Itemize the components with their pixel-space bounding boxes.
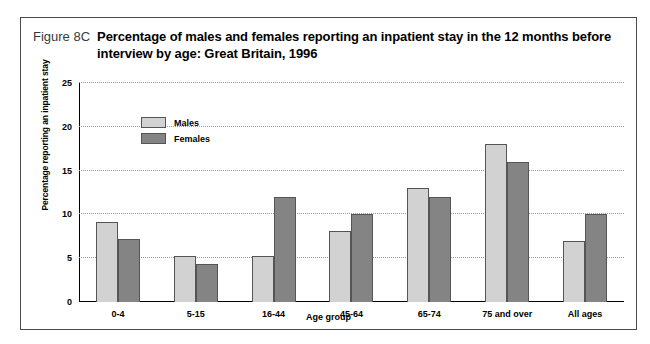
bar-males — [407, 188, 429, 302]
chart-container: Percentage reporting an inpatient stay 0… — [21, 18, 636, 329]
y-tick-label: 0 — [67, 297, 72, 307]
bar-females — [196, 264, 218, 302]
y-axis-title: Percentage reporting an inpatient stay — [40, 45, 50, 225]
legend-label: Males — [174, 118, 199, 128]
y-tick-label: 5 — [67, 253, 72, 263]
bar-males — [563, 241, 585, 302]
x-axis-title: Age group — [21, 312, 636, 322]
y-tick-label: 10 — [62, 209, 72, 219]
legend-swatch-icon — [141, 133, 166, 144]
bar-group: 75 and over — [468, 83, 546, 302]
bar-females — [429, 197, 451, 302]
y-tick-label: 15 — [62, 166, 72, 176]
bar-group: 65-74 — [390, 83, 468, 302]
legend-swatch-icon — [141, 117, 166, 128]
bar-females — [585, 214, 607, 302]
bar-females — [118, 239, 140, 302]
y-tick-label: 25 — [62, 78, 72, 88]
bar-males — [252, 256, 274, 302]
bar-males — [485, 144, 507, 302]
legend-item-males: Males — [141, 116, 210, 129]
legend-item-females: Females — [141, 132, 210, 145]
bar-females — [351, 214, 373, 302]
bar-males — [174, 256, 196, 302]
bar-males — [96, 222, 118, 302]
figure-panel: Figure 8C Percentage of males and female… — [20, 17, 637, 330]
bar-females — [507, 162, 529, 302]
bar-group: 45-64 — [313, 83, 391, 302]
bar-males — [329, 231, 351, 302]
bar-group: 16-44 — [235, 83, 313, 302]
bar-group: All ages — [546, 83, 624, 302]
legend-label: Females — [174, 134, 210, 144]
bar-females — [274, 197, 296, 302]
chart-legend: MalesFemales — [141, 116, 210, 148]
y-tick-label: 20 — [62, 122, 72, 132]
